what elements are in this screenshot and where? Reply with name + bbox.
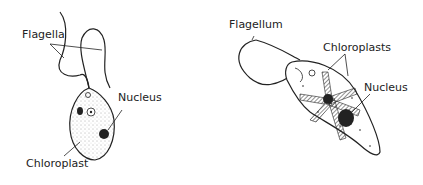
label-flagellum: Flagellum: [229, 19, 283, 31]
label-nucleus-right: Nucleus: [364, 82, 408, 94]
label-chloroplast: Chloroplast: [26, 158, 88, 170]
diagram-canvas: Flagella Nucleus Chloroplast Flagellum C…: [0, 0, 423, 185]
label-flagella: Flagella: [22, 29, 65, 41]
label-chloroplasts: Chloroplasts: [323, 42, 391, 54]
label-nucleus-left: Nucleus: [118, 92, 162, 104]
